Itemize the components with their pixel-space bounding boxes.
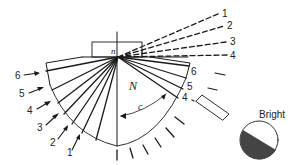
angle-arc xyxy=(121,94,166,116)
prism-label: n xyxy=(111,46,116,56)
incident-rays xyxy=(46,57,118,140)
left-label-5: 5 xyxy=(19,88,25,99)
dashed-label-2: 2 xyxy=(227,20,233,31)
right-label-5: 5 xyxy=(187,81,193,92)
right-label-6: 6 xyxy=(191,66,197,77)
prism-right-edge xyxy=(150,57,190,78)
dashed-label-1: 1 xyxy=(222,8,228,19)
prism-left-edge xyxy=(46,57,82,85)
prism-arc xyxy=(50,78,186,146)
refracted-rays xyxy=(118,13,227,57)
angle-label: c xyxy=(138,101,143,112)
eyepiece-tube xyxy=(196,95,229,120)
left-label-2: 2 xyxy=(50,137,56,148)
dashed-label-4: 4 xyxy=(230,50,236,61)
refractometer-diagram: n N c 6 5 4 3 2 1 1 2 3 4 6 5 4 Bright xyxy=(0,0,298,165)
right-label-4: 4 xyxy=(182,92,188,103)
scale-ticks xyxy=(117,117,184,160)
left-label-4: 4 xyxy=(27,105,33,116)
dashed-label-3: 3 xyxy=(230,36,236,47)
left-label-3: 3 xyxy=(37,122,43,133)
left-label-6: 6 xyxy=(15,70,21,81)
left-label-1: 1 xyxy=(67,147,73,158)
medium-label: N xyxy=(128,79,138,93)
bright-label: Bright xyxy=(259,109,285,120)
